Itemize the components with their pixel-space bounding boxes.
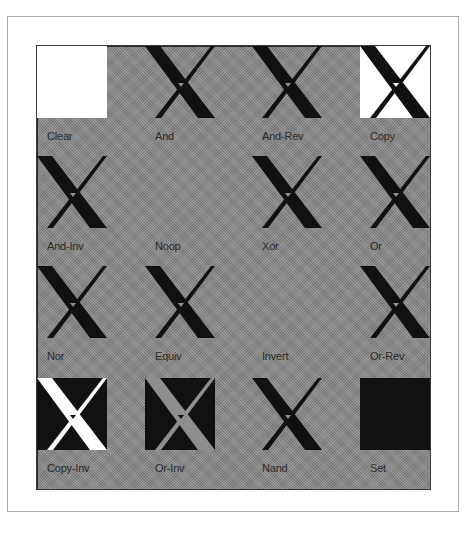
cell-label: And (155, 130, 174, 142)
cell-label: Nor (47, 350, 64, 362)
cell-label: Nand (262, 462, 288, 474)
x-glyph-icon (360, 46, 430, 118)
cell-label: Or (370, 240, 382, 252)
cell-copy: Copy (360, 46, 458, 157)
cell-label: And-Rev (262, 130, 303, 142)
clear-swatch-icon (37, 46, 107, 118)
cell-label: Copy-Inv (47, 462, 89, 474)
cell-or-inv: Or-Inv (145, 378, 243, 489)
cell-equiv: Equiv (145, 266, 243, 377)
cell-or-rev: Or-Rev (360, 266, 458, 377)
cell-nor: Nor (37, 266, 135, 377)
x-glyph-icon (360, 156, 430, 228)
cell-clear: Clear (37, 46, 135, 157)
cell-set: Set (360, 378, 458, 489)
cell-or: Or (360, 156, 458, 267)
cell-and-inv: And-Inv (37, 156, 135, 267)
noop-swatch-icon (145, 156, 215, 228)
cell-copy-inv: Copy-Inv (37, 378, 135, 489)
cell-invert: Invert (252, 266, 350, 377)
x-glyph-icon (37, 156, 107, 228)
cell-label: Set (370, 462, 386, 474)
invert-swatch-icon (252, 266, 322, 338)
x-glyph-icon (37, 266, 107, 338)
cell-label: Xor (262, 240, 279, 252)
cell-and-rev: And-Rev (252, 46, 350, 157)
x-glyph-icon (145, 46, 215, 118)
x-glyph-icon (252, 378, 322, 450)
cell-label: Invert (262, 350, 288, 362)
x-glyph-icon (145, 266, 215, 338)
cell-label: Or-Rev (370, 350, 404, 362)
x-glyph-icon (252, 156, 322, 228)
cell-label: Noop (155, 240, 181, 252)
cell-label: Or-Inv (155, 462, 184, 474)
cell-nand: Nand (252, 378, 350, 489)
cell-xor: Xor (252, 156, 350, 267)
cell-label: Equiv (155, 350, 182, 362)
raster-op-grid: Clear And And-Rev Copy (36, 45, 431, 490)
x-glyph-icon (252, 46, 322, 118)
set-swatch-icon (360, 378, 430, 450)
cell-label: Copy (370, 130, 395, 142)
cell-label: And-Inv (47, 240, 84, 252)
x-glyph-inverted-icon (145, 378, 215, 450)
x-glyph-inverted-icon (37, 378, 107, 450)
cell-and: And (145, 46, 243, 157)
x-glyph-icon (360, 266, 430, 338)
cell-label: Clear (47, 130, 72, 142)
cell-noop: Noop (145, 156, 243, 267)
